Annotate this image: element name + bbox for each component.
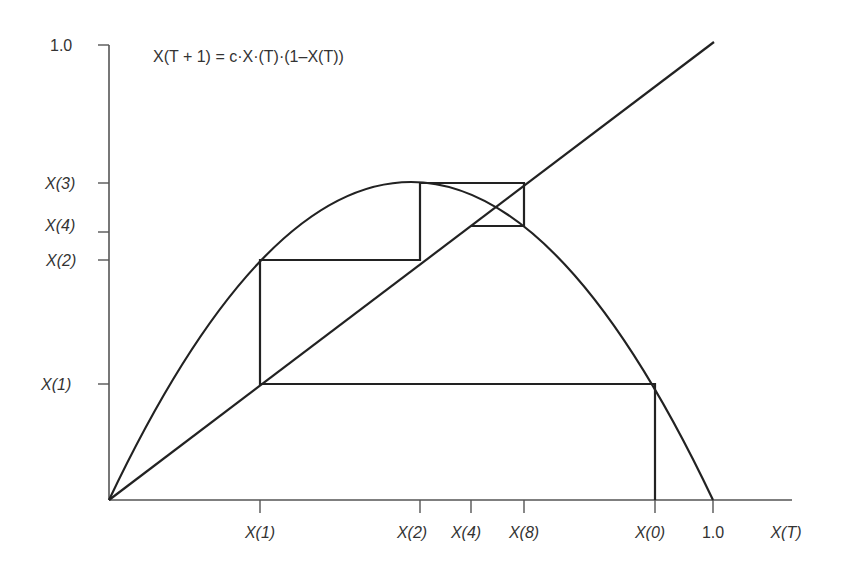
y-label-x3: X(3) — [44, 175, 75, 192]
y-label-1: 1.0 — [50, 37, 72, 54]
logistic-parabola — [109, 182, 713, 500]
x-label-1: 1.0 — [702, 524, 724, 541]
y-label-x1: X(1) — [40, 376, 71, 393]
x-axis-title: X(T) — [769, 524, 801, 541]
y-label-x2: X(2) — [45, 252, 76, 269]
x-label-x0: X(0) — [634, 524, 665, 541]
x-label-x1: X(1) — [244, 524, 275, 541]
x-label-x4: X(4) — [450, 524, 481, 541]
y-label-x4: X(4) — [44, 217, 75, 234]
logistic-map-cobweb-diagram: 1.0 X(3) X(4) X(2) X(1) X(1) X(2) X(4) X… — [0, 0, 856, 575]
x-label-x2: X(2) — [396, 524, 427, 541]
equation-label: X(T + 1) = c·X·(T)·(1–X(T)) — [153, 48, 344, 65]
x-label-x8: X(8) — [508, 524, 539, 541]
identity-line — [109, 42, 714, 500]
